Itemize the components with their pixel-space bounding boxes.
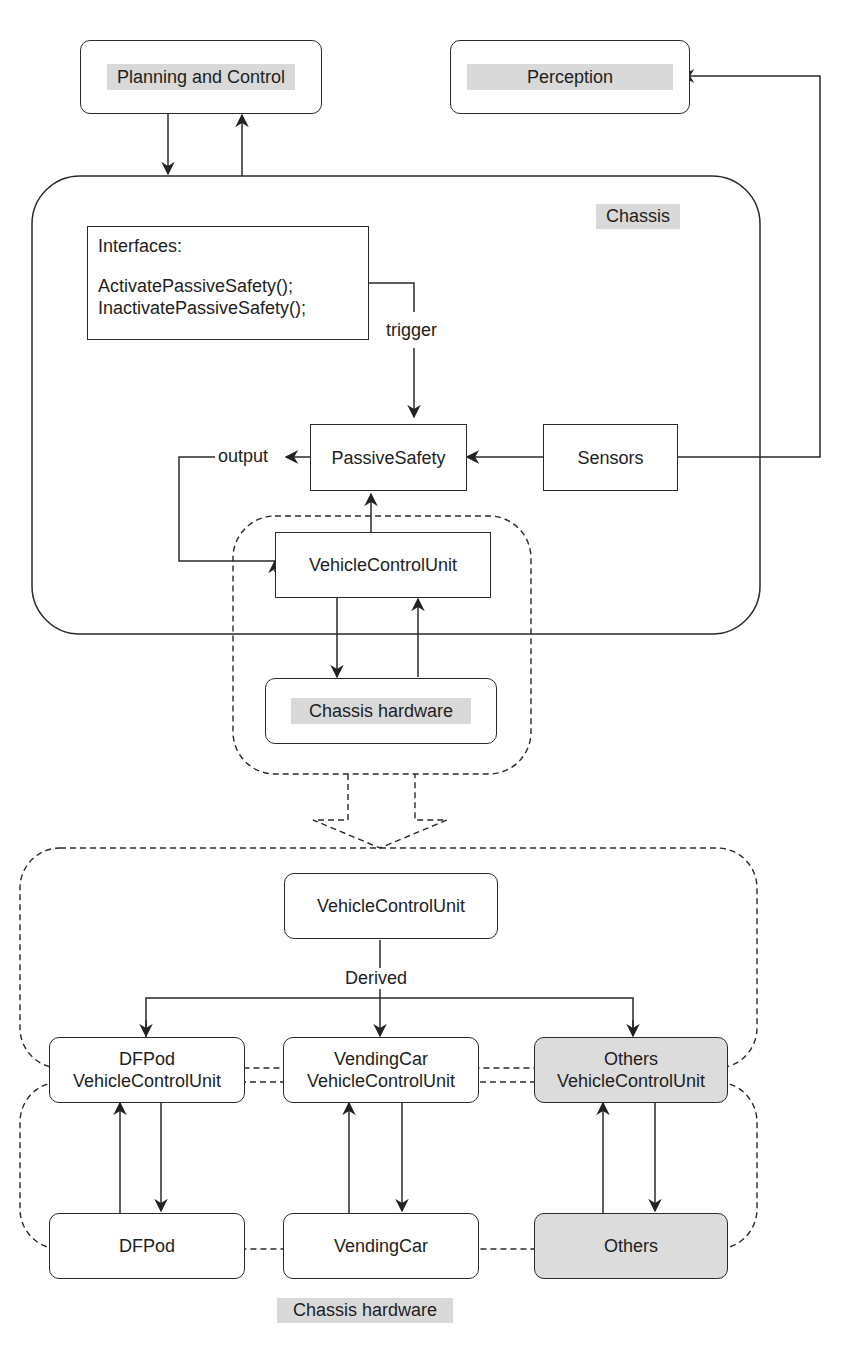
vendingcar-hardware-box: VendingCar bbox=[283, 1213, 479, 1279]
sensors-label: Sensors bbox=[577, 447, 643, 469]
trigger-label: trigger bbox=[383, 320, 440, 341]
dfpod-vcu-line1: DFPod bbox=[119, 1048, 175, 1070]
derived-label: Derived bbox=[342, 968, 410, 989]
chassis-hardware-label: Chassis hardware bbox=[291, 698, 471, 724]
interface-method: InactivatePassiveSafety(); bbox=[98, 297, 306, 319]
passive-safety-label: PassiveSafety bbox=[331, 447, 445, 469]
chassis-title: Chassis bbox=[596, 204, 680, 229]
vendingcar-vcu-box: VendingCar VehicleControlUnit bbox=[283, 1037, 479, 1103]
planning-and-control-box: Planning and Control bbox=[80, 40, 322, 114]
interface-method: ActivatePassiveSafety(); bbox=[98, 275, 293, 297]
output-label: output bbox=[215, 446, 271, 467]
others-vcu-line2: VehicleControlUnit bbox=[557, 1070, 705, 1092]
interfaces-heading: Interfaces: bbox=[98, 235, 182, 257]
others-hardware-box: Others bbox=[534, 1213, 728, 1279]
interfaces-box: Interfaces: ActivatePassiveSafety(); Ina… bbox=[87, 226, 369, 340]
chassis-hardware-box: Chassis hardware bbox=[265, 678, 497, 744]
base-vehicle-control-unit-box: VehicleControlUnit bbox=[284, 873, 498, 939]
diagram-connectors bbox=[0, 0, 841, 1352]
perception-box: Perception bbox=[450, 40, 690, 114]
planning-and-control-label: Planning and Control bbox=[107, 64, 295, 90]
others-vcu-box: Others VehicleControlUnit bbox=[534, 1037, 728, 1103]
others-vcu-line1: Others bbox=[604, 1048, 658, 1070]
dfpod-vcu-box: DFPod VehicleControlUnit bbox=[49, 1037, 245, 1103]
hardware-section-title: Chassis hardware bbox=[277, 1298, 453, 1323]
vendingcar-vcu-line2: VehicleControlUnit bbox=[307, 1070, 455, 1092]
passive-safety-box: PassiveSafety bbox=[310, 424, 467, 491]
base-vehicle-control-unit-label: VehicleControlUnit bbox=[317, 895, 465, 917]
vehicle-control-unit-box: VehicleControlUnit bbox=[275, 532, 491, 598]
vendingcar-vcu-line1: VendingCar bbox=[334, 1048, 428, 1070]
others-hardware-label: Others bbox=[604, 1235, 658, 1257]
vehicle-control-unit-label: VehicleControlUnit bbox=[309, 554, 457, 576]
dfpod-hardware-label: DFPod bbox=[119, 1235, 175, 1257]
dfpod-vcu-line2: VehicleControlUnit bbox=[73, 1070, 221, 1092]
dfpod-hardware-box: DFPod bbox=[49, 1213, 245, 1279]
sensors-box: Sensors bbox=[543, 424, 678, 491]
vendingcar-hardware-label: VendingCar bbox=[334, 1235, 428, 1257]
perception-label: Perception bbox=[467, 64, 673, 90]
